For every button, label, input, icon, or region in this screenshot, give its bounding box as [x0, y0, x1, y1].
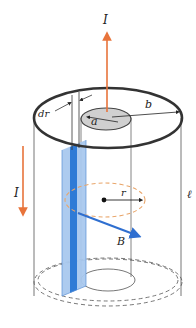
- bottom-ellipses: [34, 258, 182, 306]
- coaxial-cable-diagram: I I a b dr r B ℓ: [0, 0, 196, 328]
- label-radius: r: [121, 187, 127, 198]
- field-b-arrow: [78, 213, 136, 235]
- label-length: ℓ: [187, 188, 192, 201]
- center-dot: [102, 198, 107, 203]
- label-shell-thickness: dr: [38, 108, 50, 119]
- label-inner-radius: a: [91, 115, 98, 128]
- label-outer-radius: b: [145, 98, 152, 111]
- inner-disk: [81, 108, 131, 130]
- label-field: B: [116, 235, 125, 248]
- shell-element: [62, 140, 86, 296]
- label-current-top: I: [102, 13, 108, 27]
- inner-cylinder: [81, 118, 131, 287]
- label-current-left: I: [13, 186, 19, 200]
